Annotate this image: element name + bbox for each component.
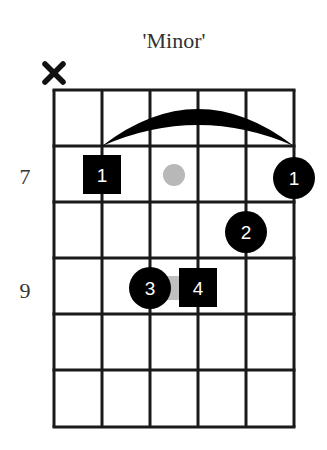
finger-number: 1: [97, 165, 108, 186]
finger-marker-root-4: 4: [179, 268, 217, 307]
fret-label-7: 7: [20, 164, 31, 189]
chord-title: 'Minor': [143, 28, 206, 53]
finger-number: 3: [145, 278, 156, 299]
finger-marker-root-1: 1: [83, 155, 121, 194]
fret-label-9: 9: [20, 278, 31, 303]
finger-marker-3: 3: [129, 267, 171, 309]
fretboard-grid: [53, 90, 296, 427]
ghost-dot: [163, 164, 185, 186]
finger-number: 1: [289, 168, 300, 189]
finger-number: 2: [241, 222, 252, 243]
finger-number: 4: [193, 278, 204, 299]
finger-marker-2: 2: [225, 211, 267, 253]
chord-diagram: 'Minor' 7 9 1 1: [0, 0, 327, 450]
finger-marker-1: 1: [273, 157, 315, 199]
muted-string-x-icon: [45, 64, 63, 82]
